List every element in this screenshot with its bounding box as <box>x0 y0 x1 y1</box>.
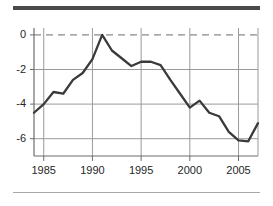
xtick-label-1990: 1990 <box>75 164 109 176</box>
xtick-label-2000: 2000 <box>173 164 207 176</box>
ytick-label-0: 0 <box>6 28 26 40</box>
ytick-label--2: -2 <box>6 63 26 75</box>
x-axis-ticks <box>44 156 239 161</box>
xtick-label-1995: 1995 <box>124 164 158 176</box>
ytick-label--4: -4 <box>6 97 26 109</box>
plot-background <box>34 28 258 156</box>
chart-figure: 0-2-4-6 19851990199520002005 <box>0 0 273 206</box>
xtick-label-2005: 2005 <box>222 164 256 176</box>
ytick-label--6: -6 <box>6 132 26 144</box>
xtick-label-1985: 1985 <box>27 164 61 176</box>
